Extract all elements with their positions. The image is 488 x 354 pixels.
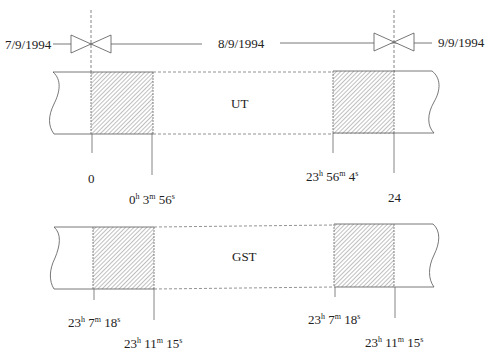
gst-tick-label-right-b: 23h 11m 15s bbox=[365, 336, 423, 349]
ut-band-label: UT bbox=[231, 97, 248, 110]
diagram-canvas bbox=[0, 0, 488, 354]
ut-tick-label-23h56m4s: 23h 56m 4s bbox=[306, 170, 358, 183]
ut-left-hatched-region bbox=[91, 72, 153, 134]
ut-tick-label-0h3m56s: 0h 3m 56s bbox=[129, 193, 175, 206]
gst-band-label: GST bbox=[232, 250, 257, 263]
date-label-right: 9/9/1994 bbox=[438, 36, 484, 49]
ut-right-break-edge bbox=[429, 71, 439, 133]
ut-tick-label-24: 24 bbox=[388, 191, 401, 204]
gst-left-hatched-region bbox=[93, 227, 154, 289]
date-label-left: 7/9/1994 bbox=[5, 38, 51, 51]
date-label-center: 8/9/1994 bbox=[218, 37, 264, 50]
ut-tick-label-0: 0 bbox=[88, 172, 95, 185]
gst-tick-label-left-a: 23h 7m 18s bbox=[68, 316, 120, 329]
gst-right-break-edge bbox=[430, 224, 439, 287]
ut-right-hatched-region bbox=[333, 71, 394, 134]
gst-tick-label-left-b: 23h 11m 15s bbox=[124, 337, 182, 350]
gst-right-hatched-region bbox=[334, 224, 394, 287]
gst-tick-label-right-a: 23h 7m 18s bbox=[308, 313, 360, 326]
ut-left-break-edge bbox=[50, 72, 60, 134]
gst-left-break-edge bbox=[50, 227, 59, 289]
